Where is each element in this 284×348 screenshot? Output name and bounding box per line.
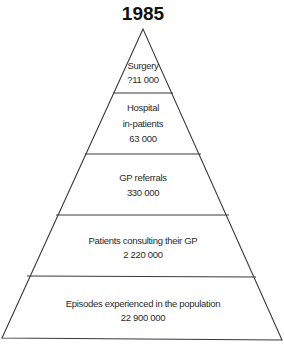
level-label-line2: in-patients [123,118,164,129]
pyramid-diagram: 1985 Surgery ?11 000 Hospital in-patient… [0,0,284,348]
divider-4 [27,276,256,277]
level-value: ?11 000 [127,74,159,85]
level-label: Surgery [127,60,159,71]
level-label: Episodes experienced in the population [66,298,220,309]
level-label: GP referrals [119,172,167,183]
level-label: Patients consulting their GP [89,235,198,246]
pyramid-level-patients-consulting-gp: Patients consulting their GP 2 220 000 [89,235,198,260]
level-value: 330 000 [127,187,159,198]
pyramid-level-gp-referrals: GP referrals 330 000 [119,172,167,198]
level-value: 2 220 000 [123,249,163,260]
diagram-title: 1985 [122,3,165,24]
pyramid-level-hospital-inpatients: Hospital in-patients 63 000 [123,102,164,144]
pyramid-level-surgery: Surgery ?11 000 [127,60,159,85]
level-value: 63 000 [129,133,156,144]
pyramid-level-episodes-population: Episodes experienced in the population 2… [66,298,220,323]
level-value: 22 900 000 [121,312,166,323]
level-label: Hospital [127,102,159,113]
